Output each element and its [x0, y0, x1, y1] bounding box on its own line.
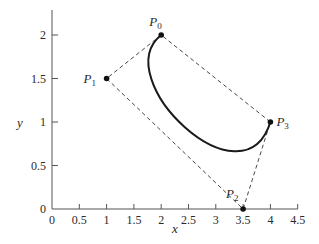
control-point-marker	[268, 119, 274, 125]
control-point-label: P2	[225, 186, 238, 203]
control-point-label: P3	[275, 114, 289, 131]
x-tick-label: 2	[158, 213, 164, 227]
control-point-label: P0	[148, 14, 162, 31]
x-axis-label: x	[171, 221, 178, 236]
y-tick-label: 1.5	[31, 72, 46, 86]
y-tick-label: 2	[40, 28, 46, 42]
y-tick-label: 1	[40, 115, 46, 129]
x-tick-label: 1.5	[126, 213, 141, 227]
x-tick-label: 1	[104, 213, 110, 227]
control-point-marker	[240, 206, 246, 212]
y-tick-label: 0	[40, 202, 46, 216]
control-point-marker	[158, 32, 164, 38]
control-polygon	[107, 35, 271, 209]
x-tick-label: 3	[213, 213, 219, 227]
control-point-label: P1	[83, 71, 96, 88]
x-tick-label: 2.5	[181, 213, 196, 227]
axes: 00.511.522.533.544.500.511.52	[31, 10, 305, 227]
y-tick-label: 0.5	[31, 159, 46, 173]
x-tick-label: 4.5	[290, 213, 305, 227]
y-axis-label: y	[15, 115, 23, 130]
bezier-chart: 00.511.522.533.544.500.511.52 P0P1P2P3 x…	[0, 0, 319, 244]
bezier-curve	[148, 35, 270, 151]
x-tick-label: 4	[267, 213, 273, 227]
bezier-path	[148, 35, 270, 151]
x-tick-label: 0	[49, 213, 55, 227]
control-point-marker	[104, 76, 110, 82]
x-tick-label: 3.5	[236, 213, 251, 227]
x-tick-label: 0.5	[72, 213, 87, 227]
control-polygon-line	[107, 35, 271, 209]
